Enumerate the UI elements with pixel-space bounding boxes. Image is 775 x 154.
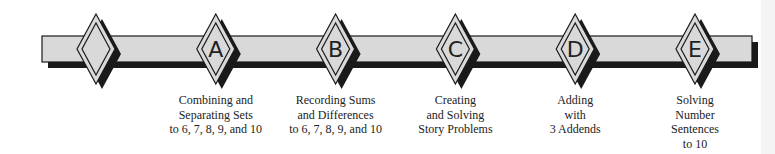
label-line: to 10: [620, 137, 770, 152]
label-line: Number: [620, 108, 770, 123]
label-line: Solving: [620, 93, 770, 108]
marker-letter: D: [567, 37, 584, 62]
milestone-label: SolvingNumberSentencesto 10: [620, 93, 770, 151]
timeline-bar: [42, 36, 752, 62]
marker-letter: E: [688, 37, 702, 62]
marker-letter: A: [208, 37, 223, 62]
label-line: Sentences: [620, 122, 770, 137]
marker-letter: C: [448, 37, 463, 62]
marker-letter: B: [328, 37, 343, 62]
